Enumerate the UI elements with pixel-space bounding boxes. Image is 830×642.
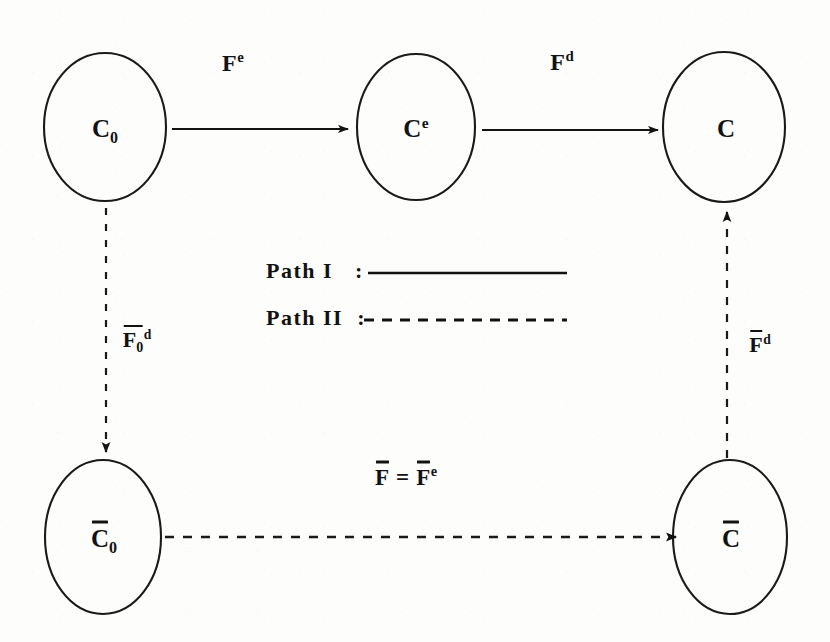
equals-sign: = (389, 465, 416, 490)
legend-label-path-i: Path I (266, 258, 333, 283)
legend-label-path-ii: Path II (266, 305, 343, 330)
overbar-f-lhs: F (375, 466, 389, 489)
overbar-f-rhs: F (416, 466, 430, 489)
node-c0-label: C0 (92, 116, 118, 141)
legend-entry-path-i: Path I: (266, 260, 364, 282)
arrow-label-f0-bar-d: F0d (123, 329, 152, 351)
overbar-f-right: F (749, 334, 762, 356)
arrow-label-fd: Fd (550, 50, 573, 74)
diagram-root: C0 Ce C C0 C Fe Fd F0d Fd F=Fe Path I: P… (0, 0, 830, 642)
node-ce-label: Ce (403, 116, 428, 141)
node-c-label: C (717, 116, 735, 141)
overbar-c: C (722, 526, 740, 551)
arrow-label-f-bar-d: Fd (749, 334, 771, 356)
node-c0-bar-label: C0 (91, 526, 117, 551)
legend-colon-path-i: : (333, 258, 364, 283)
overbar-c0: C (91, 526, 109, 551)
legend-colon-path-ii: : (343, 305, 366, 330)
overbar-f0: F0 (123, 329, 144, 351)
legend-entry-path-ii: Path II: (266, 307, 366, 329)
diagram-canvas (0, 0, 830, 642)
node-c-bar-label: C (722, 526, 740, 551)
equation-f-equals-fe-bar: F=Fe (375, 466, 437, 489)
arrow-label-fe: Fe (222, 51, 244, 75)
